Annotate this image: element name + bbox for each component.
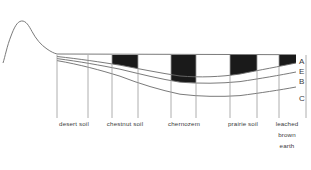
climate-curve xyxy=(3,21,57,63)
soil-label-prairie-soil: prairie soil xyxy=(228,120,258,127)
soil-label-desert-soil: desert soil xyxy=(59,120,89,127)
soil-profile-figure: A E B C desert soil chestnut soil cherno… xyxy=(0,0,311,170)
horizon-b-label: B xyxy=(299,77,304,86)
soil-label-chestnut-soil: chestnut soil xyxy=(107,120,143,127)
soil-label-chernozem: chernozem xyxy=(168,120,200,127)
soil-label-leached-line2: brown xyxy=(278,131,296,138)
horizon-e-label: E xyxy=(299,67,304,76)
diagram-canvas: A E B C desert soil chestnut soil cherno… xyxy=(0,0,311,170)
horizon-c-label: C xyxy=(299,94,305,103)
horizon-a-label: A xyxy=(299,57,305,66)
soil-label-leached-line1: leached xyxy=(276,120,299,127)
dark-horizon-blocks xyxy=(112,55,306,100)
surface-line xyxy=(57,54,296,55)
soil-label-leached-line3: earth xyxy=(280,142,295,149)
